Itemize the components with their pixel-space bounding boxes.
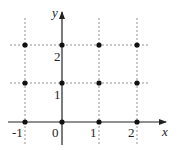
- horizontal-grid-lines: [10, 45, 150, 83]
- point-2-2: [134, 42, 139, 47]
- y-tick-label-1: 1: [54, 87, 61, 102]
- diagram-svg: -1 0 1 2 1 2 x y: [0, 0, 180, 150]
- y-tick-label-2: 2: [54, 49, 61, 64]
- point-2-1: [134, 80, 139, 85]
- point-1-2: [96, 42, 101, 47]
- point-1-1: [96, 80, 101, 85]
- point-2-0: [134, 119, 139, 124]
- point-0-0: [59, 119, 64, 124]
- point-neg1-2: [22, 42, 27, 47]
- point-1-0: [96, 119, 101, 124]
- lattice-diagram: -1 0 1 2 1 2 x y: [0, 0, 180, 150]
- point-neg1-0: [22, 119, 27, 124]
- point-0-2: [59, 42, 64, 47]
- point-0-1: [59, 80, 64, 85]
- vertical-grid-lines: [25, 18, 137, 145]
- origin-label: 0: [52, 125, 59, 140]
- x-tick-label-2: 2: [128, 125, 135, 140]
- y-axis-label: y: [50, 5, 58, 20]
- x-tick-label-neg1: -1: [12, 125, 23, 140]
- lattice-points: [22, 42, 139, 124]
- point-neg1-1: [22, 80, 27, 85]
- x-axis-label: x: [161, 124, 168, 139]
- x-tick-label-1: 1: [90, 125, 97, 140]
